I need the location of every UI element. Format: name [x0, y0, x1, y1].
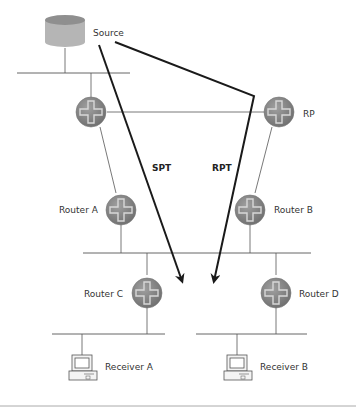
- router-b-icon: [235, 195, 265, 225]
- rpt-arrow: [115, 42, 254, 281]
- rpt-label: RPT: [212, 163, 233, 173]
- receiver-a-computer-icon: [69, 355, 97, 380]
- source-label: Source: [93, 28, 124, 38]
- link-rp-router-b: [255, 127, 272, 193]
- top-router-icon: [76, 97, 106, 127]
- rp-label: RP: [303, 109, 315, 119]
- spt-label: SPT: [152, 163, 172, 173]
- receiver-b-computer-icon: [224, 355, 252, 380]
- receiver-a-label: Receiver A: [105, 362, 154, 372]
- database-icon: [45, 15, 85, 47]
- router-c-icon: [132, 278, 162, 308]
- router-b-label: Router B: [274, 205, 313, 215]
- link-top-router-router-a: [100, 127, 116, 193]
- rp-router-icon: [264, 97, 294, 127]
- network-diagram: Source RP Router A Router B Router C Rou…: [0, 0, 356, 413]
- router-a-label: Router A: [59, 205, 99, 215]
- router-d-label: Router D: [299, 289, 339, 299]
- router-c-label: Router C: [84, 289, 123, 299]
- receiver-b-label: Receiver B: [260, 362, 308, 372]
- router-a-icon: [106, 195, 136, 225]
- router-d-icon: [261, 278, 291, 308]
